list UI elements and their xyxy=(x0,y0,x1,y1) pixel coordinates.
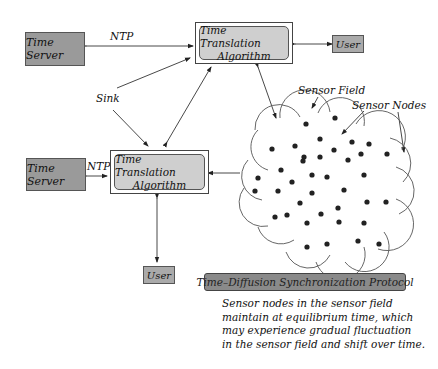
sensor-field-cloud xyxy=(239,90,414,280)
sink-to-bottom-algorithm xyxy=(113,110,148,146)
sensor-nodes xyxy=(252,115,389,249)
algorithm-bottom-inner: Time Translation Algorithm xyxy=(114,154,205,190)
user-top: User xyxy=(332,35,364,53)
description-line-2: maintain at equilibrium time, which xyxy=(222,311,425,325)
time-server-top-label: Time Server xyxy=(26,36,84,62)
sink-label: Sink xyxy=(96,92,120,104)
top-algorithm-to-field xyxy=(258,67,276,118)
sensor-field-pointer xyxy=(312,97,318,108)
ntp-label-top: NTP xyxy=(110,30,133,42)
algorithm-top-inner: Time Translation Algorithm xyxy=(199,26,289,60)
protocol-label: Time–Diffusion Synchronization Protocol xyxy=(196,276,413,288)
time-translation-algorithm-top: Time Translation Algorithm xyxy=(195,22,293,64)
sensor-nodes-pointer-1 xyxy=(342,111,364,134)
user-bottom: User xyxy=(143,266,175,284)
user-bottom-label: User xyxy=(147,270,171,281)
protocol-banner: Time–Diffusion Synchronization Protocol xyxy=(204,273,406,291)
description-line-1: Sensor nodes in the sensor field xyxy=(222,297,425,311)
algorithm-bottom-line2: Algorithm xyxy=(133,179,186,192)
time-server-bottom: Time Server xyxy=(26,158,86,191)
algorithm-interlink xyxy=(167,67,211,142)
algorithm-top-line1: Time Translation xyxy=(200,24,288,50)
description-line-3: may experience gradual fluctuation xyxy=(222,324,425,338)
user-top-label: User xyxy=(336,39,360,50)
time-server-top: Time Server xyxy=(25,32,85,66)
time-translation-algorithm-bottom: Time Translation Algorithm xyxy=(110,150,209,194)
ntp-label-bottom: NTP xyxy=(87,160,110,172)
sink-to-top-algorithm xyxy=(117,58,190,88)
description-line-4: in the sensor field and shift over time. xyxy=(222,338,425,352)
sensor-nodes-label: Sensor Nodes xyxy=(352,99,426,111)
sensor-nodes-pointer-2 xyxy=(398,112,404,152)
algorithm-bottom-line1: Time Translation xyxy=(115,153,204,179)
sensor-field-label: Sensor Field xyxy=(298,84,365,96)
algorithm-top-line2: Algorithm xyxy=(217,50,270,63)
protocol-description: Sensor nodes in the sensor field maintai… xyxy=(222,297,425,351)
time-server-bottom-label: Time Server xyxy=(27,162,85,188)
